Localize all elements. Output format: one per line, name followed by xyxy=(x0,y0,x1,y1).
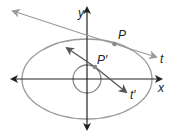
point-p-label: P xyxy=(118,28,126,42)
ellipse-circle-tangent-diagram: y x P P′ t t′ xyxy=(0,0,176,137)
diagram: y x P P′ t t′ xyxy=(0,0,176,137)
x-axis-label: x xyxy=(157,81,165,95)
tangent-t-prime-label: t′ xyxy=(130,88,136,102)
tangent-t-label: t xyxy=(160,52,164,66)
point-p xyxy=(112,42,117,47)
tangent-line-t-prime xyxy=(67,48,95,67)
tangent-line-t xyxy=(13,11,80,33)
point-p-prime-label: P′ xyxy=(97,53,108,67)
y-axis-label: y xyxy=(77,6,85,20)
